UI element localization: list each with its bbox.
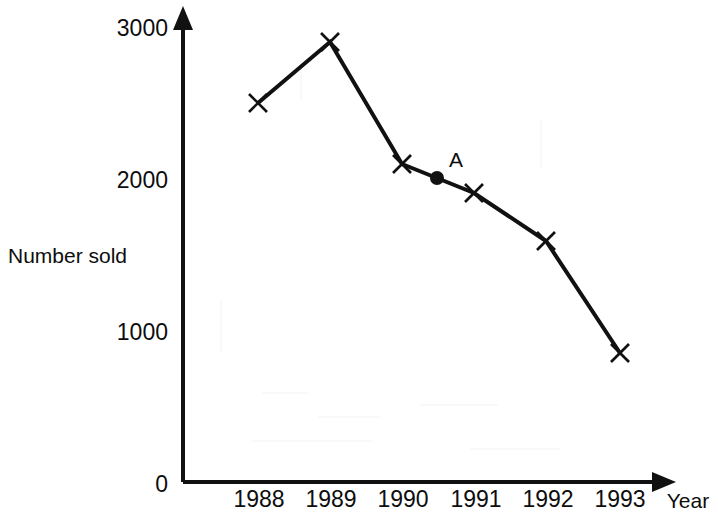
x-tick-label-1989: 1989 (305, 486, 356, 512)
y-axis-title: Number sold (8, 244, 127, 267)
y-tick-label-3000: 3000 (117, 15, 168, 41)
x-axis-title: Year (667, 489, 709, 512)
line-chart: 3000 2000 1000 0 1988 1989 1990 1991 199… (0, 0, 718, 515)
point-a-marker-icon (430, 171, 444, 185)
y-tick-label-1000: 1000 (117, 319, 168, 345)
x-tick-label-1992: 1992 (522, 486, 573, 512)
chart-screenshot: 3000 2000 1000 0 1988 1989 1990 1991 199… (0, 0, 718, 515)
y-tick-label-0: 0 (155, 471, 168, 497)
x-tick-label-1990: 1990 (377, 486, 428, 512)
point-a-label: A (449, 148, 463, 171)
x-tick-label-1993: 1993 (594, 486, 645, 512)
y-tick-label-2000: 2000 (117, 167, 168, 193)
x-tick-label-1991: 1991 (450, 486, 501, 512)
x-tick-label-1988: 1988 (233, 486, 284, 512)
